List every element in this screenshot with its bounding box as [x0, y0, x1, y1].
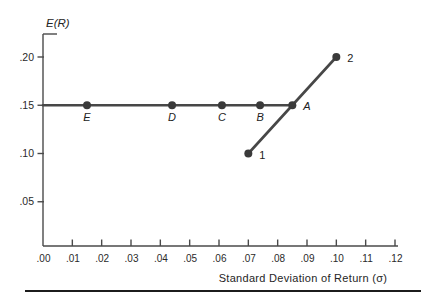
x-tick-label: .04: [154, 253, 168, 264]
point-label-A: A: [302, 100, 310, 112]
x-tick-label: .11: [360, 253, 374, 264]
point-label-2: 2: [347, 52, 353, 64]
data-point-1: [244, 150, 252, 158]
point-label-B: B: [256, 111, 263, 123]
x-tick-label: .05: [183, 253, 197, 264]
x-tick-label: .09: [301, 253, 315, 264]
data-point-D: [168, 101, 176, 109]
x-tick-label: .10: [330, 253, 344, 264]
x-tick-label: .12: [389, 253, 403, 264]
x-tick-label: .06: [213, 253, 227, 264]
x-tick-label: .07: [242, 253, 256, 264]
y-tick-label: .15: [19, 99, 34, 111]
figure-page: E(R) .00.01.02.03.04.05.06.07.08.09.10.1…: [0, 0, 421, 304]
bottom-rule: [25, 290, 421, 292]
x-tick-label: .08: [271, 253, 285, 264]
point-label-E: E: [83, 111, 91, 123]
point-label-1: 1: [259, 149, 265, 161]
data-point-E: [83, 101, 91, 109]
data-point-A: [288, 101, 296, 109]
data-point-2: [332, 53, 340, 61]
data-point-C: [218, 101, 226, 109]
y-tick-label: .05: [19, 195, 34, 207]
x-axis-title: Standard Deviation of Return (σ): [219, 272, 388, 284]
chart-canvas: E(R) .00.01.02.03.04.05.06.07.08.09.10.1…: [0, 0, 421, 304]
point-label-D: D: [168, 111, 176, 123]
x-tick-label: .01: [66, 253, 80, 264]
data-point-B: [256, 101, 264, 109]
y-tick-label: .20: [19, 51, 34, 63]
x-tick-label: .00: [37, 253, 51, 264]
y-tick-label: .10: [19, 147, 34, 159]
x-tick-label: .02: [95, 253, 109, 264]
y-axis-title: E(R): [46, 17, 70, 29]
plot-area: .00.01.02.03.04.05.06.07.08.09.10.11.12.…: [19, 34, 402, 264]
x-tick-label: .03: [125, 253, 139, 264]
point-label-C: C: [218, 111, 226, 123]
